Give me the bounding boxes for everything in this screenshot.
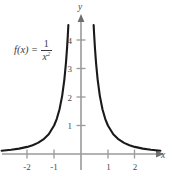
fraction-denominator-exponent: 2 bbox=[47, 50, 50, 57]
y-tick-label-2: 2 bbox=[68, 93, 73, 103]
function-label: f(x) = 1 x2 bbox=[14, 39, 52, 62]
y-axis-label: y bbox=[77, 2, 83, 12]
y-axis-arrow-icon bbox=[78, 14, 85, 22]
bottom-cropped-text-strip bbox=[0, 170, 172, 177]
curve-right-branch bbox=[94, 25, 161, 151]
function-label-lhs: f(x) bbox=[14, 45, 29, 56]
figure-graph-of-one-over-x-squared: -2 -1 1 2 1 2 3 4 x y f(x) = bbox=[0, 0, 172, 177]
y-tick-label-3: 3 bbox=[68, 64, 73, 74]
y-tick-label-1: 1 bbox=[68, 121, 73, 131]
function-label-fraction: 1 x2 bbox=[41, 39, 53, 62]
fraction-numerator: 1 bbox=[42, 39, 51, 50]
plot-canvas: -2 -1 1 2 1 2 3 4 x y bbox=[0, 0, 172, 177]
fraction-denominator: x2 bbox=[41, 51, 53, 62]
function-label-equals: = bbox=[32, 45, 38, 56]
y-tick-labels-group: 1 2 3 4 bbox=[68, 36, 73, 132]
